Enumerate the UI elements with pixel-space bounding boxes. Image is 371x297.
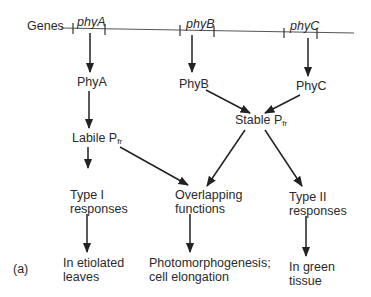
- stable-pfr-subscript: fr: [282, 119, 287, 128]
- gene-phyC: phyC: [290, 19, 319, 33]
- type2-responses-label: Type II responses: [289, 190, 347, 218]
- type2-line1: Type II: [289, 190, 347, 204]
- labile-pfr-text: Labile P: [72, 131, 117, 145]
- arrow-stable-to-overlap: [207, 130, 245, 186]
- photomorphogenesis-label: Photomorphogenesis; cell elongation: [149, 256, 271, 284]
- stable-pfr-label: Stable Pfr: [235, 113, 287, 131]
- type1-line2: responses: [70, 202, 128, 216]
- overlap-line2: functions: [175, 202, 242, 216]
- etiolated-leaves-label: In etiolated leaves: [63, 256, 124, 284]
- type1-line1: Type I: [70, 188, 128, 202]
- photo-line1: Photomorphogenesis;: [149, 256, 271, 270]
- gene-phyA: phyA: [77, 15, 106, 29]
- green-line1: In green: [289, 260, 335, 274]
- arrow-labile-to-overlap: [120, 147, 188, 185]
- arrow-phyC-to-stable: [265, 95, 300, 113]
- stable-pfr-text: Stable P: [235, 113, 282, 127]
- arrow-phyB-to-stable: [206, 90, 250, 113]
- type2-line2: responses: [289, 204, 347, 218]
- labile-pfr-label: Labile Pfr: [72, 131, 122, 149]
- diagram-connectors: [0, 0, 371, 297]
- green-tissue-label: In green tissue: [289, 260, 335, 288]
- arrow-stable-to-type2: [265, 130, 302, 186]
- overlap-line1: Overlapping: [175, 188, 242, 202]
- photo-line2: cell elongation: [149, 270, 271, 284]
- etiolated-line1: In etiolated: [63, 256, 124, 270]
- gene-phyB: phyB: [186, 17, 215, 31]
- etiolated-line2: leaves: [63, 270, 124, 284]
- green-line2: tissue: [289, 274, 335, 288]
- type1-responses-label: Type I responses: [70, 188, 128, 216]
- protein-phyC: PhyC: [296, 79, 327, 93]
- panel-label: (a): [13, 262, 28, 276]
- overlapping-functions-label: Overlapping functions: [175, 188, 242, 216]
- genes-label: Genes: [27, 19, 64, 33]
- protein-phyA: PhyA: [77, 75, 107, 89]
- protein-phyB: PhyB: [179, 77, 209, 91]
- labile-pfr-subscript: fr: [117, 137, 122, 146]
